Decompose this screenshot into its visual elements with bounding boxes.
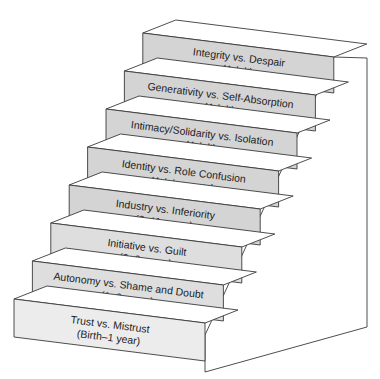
staircase-diagram: Integrity vs. Despair(Adult)Generativity… <box>0 0 380 379</box>
